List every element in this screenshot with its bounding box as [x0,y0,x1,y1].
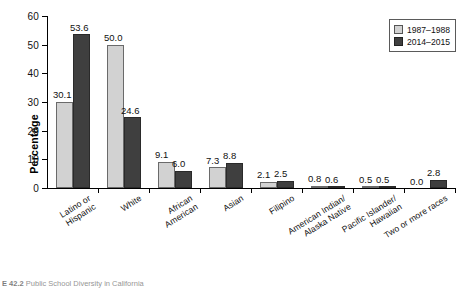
bar-value-label: 0.0 [410,176,423,187]
bar [328,186,345,188]
y-axis-line [47,16,48,188]
bar [209,167,226,188]
legend-item-label: 2014–2015 [407,37,450,47]
x-axis-tick [149,188,150,193]
dark-gray-swatch-icon [394,37,403,46]
bar [362,186,379,188]
y-axis-tick-label: 40 [27,68,39,79]
bar [107,45,124,188]
y-axis-tick [42,16,47,17]
bar-value-label: 30.1 [53,89,72,100]
y-axis-tick-label: 0 [33,183,39,194]
y-axis-title: Percentage [28,114,40,174]
bar [260,182,277,188]
bar-value-label: 53.6 [70,22,89,33]
x-axis-tick [404,188,405,193]
bar-value-label: 2.1 [257,169,270,180]
legend-item: 1987–1988 [394,24,450,35]
bar [124,117,141,188]
figure-caption: E 42.2 Public School Diversity in Califo… [2,279,144,288]
chart-legend: 1987–1988 2014–2015 [389,19,456,52]
bar-value-label: 2.8 [427,167,440,178]
y-axis-tick-label: 10 [27,154,39,165]
y-axis-tick-label: 30 [27,97,39,108]
bar [430,180,447,188]
bar [379,186,396,188]
bar-value-label: 50.0 [104,32,123,43]
y-axis-tick [42,159,47,160]
y-axis-tick [42,45,47,46]
y-axis-tick-label: 20 [27,125,39,136]
x-axis-tick [251,188,252,193]
x-axis-tick [455,188,456,193]
x-axis-tick [353,188,354,193]
figure-caption-text: Public School Diversity in California [26,279,144,288]
x-axis-tick [200,188,201,193]
bar-value-label: 6.0 [172,158,185,169]
bar-value-label: 0.5 [376,174,389,185]
x-axis-tick [98,188,99,193]
bar-value-label: 0.5 [359,174,372,185]
bar-value-label: 24.6 [121,105,140,116]
legend-item: 2014–2015 [394,36,450,47]
bar-value-label: 2.5 [274,168,287,179]
bar [226,163,243,188]
light-gray-swatch-icon [394,25,403,34]
bar [175,171,192,188]
y-axis-tick [42,73,47,74]
y-axis-tick-label: 60 [27,11,39,22]
legend-item-label: 1987–1988 [407,25,450,35]
x-axis-tick [302,188,303,193]
y-axis-tick [42,102,47,103]
bar [73,34,90,188]
bar [277,181,294,188]
bar-chart: Percentage 0102030405060 30.153.650.024.… [0,0,469,288]
bar [56,102,73,188]
y-axis-tick [42,188,47,189]
y-axis-tick [42,131,47,132]
bar [311,186,328,188]
bar-value-label: 0.6 [325,174,338,185]
bar-value-label: 8.8 [223,150,236,161]
bar-value-label: 9.1 [155,149,168,160]
bar-value-label: 0.8 [308,173,321,184]
figure-number: E 42.2 [2,279,24,288]
y-axis-tick-label: 50 [27,39,39,50]
bar-value-label: 7.3 [206,155,219,166]
